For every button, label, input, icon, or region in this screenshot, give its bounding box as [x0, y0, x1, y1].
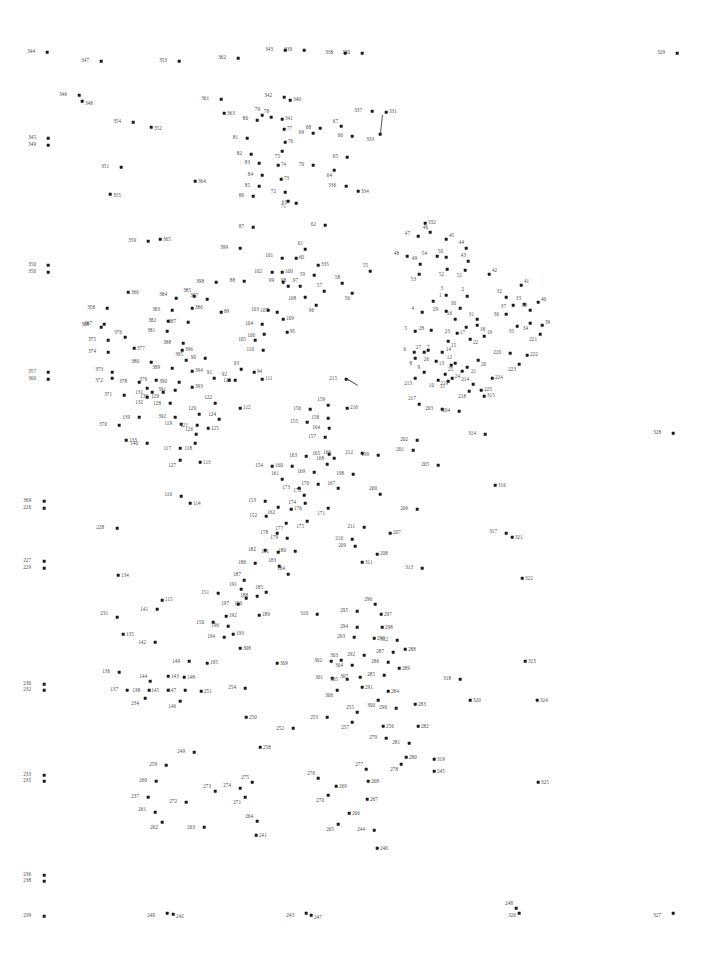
puzzle-dot [373, 637, 376, 640]
puzzle-dot [436, 255, 439, 258]
dot-number-label: 331 [389, 109, 397, 114]
dot-number-label: 394 [195, 368, 203, 373]
puzzle-dot [459, 307, 462, 310]
puzzle-dot [198, 413, 201, 416]
puzzle-dot [400, 763, 403, 766]
puzzle-dot [476, 324, 479, 327]
puzzle-dot [414, 703, 417, 706]
puzzle-dot [46, 51, 49, 54]
puzzle-dot [218, 418, 221, 421]
dot-number-label: 353 [159, 58, 167, 63]
dot-number-label: 379 [139, 377, 147, 382]
dot-number-label: 182 [248, 547, 256, 552]
dot-number-label: 57 [317, 283, 322, 288]
dot-number-label: 117 [163, 446, 171, 451]
dot-number-label: 71 [281, 204, 286, 209]
dot-number-label: 278 [390, 767, 398, 772]
puzzle-dot [312, 132, 315, 135]
dot-number-label: 36 [494, 312, 499, 317]
puzzle-dot [298, 487, 301, 490]
dot-number-label: 26 [424, 357, 429, 362]
puzzle-dot [676, 52, 679, 55]
puzzle-dot [217, 592, 220, 595]
puzzle-dot [371, 110, 374, 113]
dot-number-label: 12 [447, 355, 452, 360]
dot-number-label: 58 [335, 275, 340, 280]
dot-number-label: 302 [314, 658, 322, 663]
dot-number-label: 163 [289, 453, 297, 458]
dot-number-label: 20 [481, 362, 486, 367]
dot-number-label: 392 [158, 414, 166, 419]
puzzle-dot [303, 49, 306, 52]
puzzle-dot [286, 537, 289, 540]
puzzle-dot [43, 915, 46, 918]
puzzle-dot [359, 676, 362, 679]
puzzle-dot [516, 325, 519, 328]
puzzle-dot [155, 379, 158, 382]
puzzle-dot [430, 329, 433, 332]
puzzle-dot [240, 368, 243, 371]
puzzle-dot [488, 273, 491, 276]
puzzle-dot [294, 550, 297, 553]
puzzle-dot [405, 756, 408, 759]
dot-number-label: 204 [442, 408, 450, 413]
puzzle-dot [344, 52, 347, 55]
dot-number-label: 131 [135, 390, 143, 395]
dot-number-label: 264 [245, 814, 253, 819]
dot-number-label: 219 [440, 381, 448, 386]
dot-number-label: 248 [505, 901, 513, 906]
puzzle-dot [154, 641, 157, 644]
puzzle-dot [281, 150, 284, 153]
puzzle-dot [240, 588, 243, 591]
puzzle-dot [213, 377, 216, 380]
dot-number-label: 274 [223, 783, 231, 788]
puzzle-dot [199, 461, 202, 464]
dot-number-label: 211 [347, 524, 355, 529]
dot-number-label: 287 [376, 649, 384, 654]
puzzle-dot [43, 560, 46, 563]
dot-number-label: 277 [355, 762, 363, 767]
dot-number-label: 65 [333, 154, 338, 159]
puzzle-dot [435, 360, 438, 363]
dot-number-label: 247 [314, 915, 322, 920]
dot-number-label: 77 [287, 126, 292, 131]
dot-number-label: 222 [530, 352, 538, 357]
puzzle-dot [281, 478, 284, 481]
dot-number-label: 166 [323, 450, 331, 455]
dot-number-label: 376 [114, 330, 122, 335]
dot-number-label: 56 [345, 296, 350, 301]
dot-number-label: 232 [23, 687, 31, 692]
puzzle-dot [373, 829, 376, 832]
puzzle-dot [282, 318, 285, 321]
dot-number-label: 213 [404, 381, 412, 386]
dot-number-label: 64 [327, 173, 332, 178]
puzzle-dot [518, 363, 521, 366]
puzzle-dot [290, 508, 293, 511]
dot-number-label: 397 [190, 293, 198, 298]
puzzle-dot [389, 532, 392, 535]
puzzle-dot [292, 727, 295, 730]
puzzle-dot [491, 377, 494, 380]
puzzle-dot [47, 378, 50, 381]
puzzle-dot [337, 823, 340, 826]
puzzle-dot [166, 330, 169, 333]
puzzle-dot [256, 119, 259, 122]
dot-number-label: 261 [138, 807, 146, 812]
puzzle-dot [454, 362, 457, 365]
dot-number-label: 347 [81, 58, 89, 63]
dot-number-label: 333 [366, 137, 374, 142]
dot-number-label: 5 [404, 326, 407, 331]
puzzle-dot [295, 257, 298, 260]
puzzle-dot [147, 796, 150, 799]
dot-number-label: 258 [263, 745, 271, 750]
puzzle-dot [243, 280, 246, 283]
puzzle-dot [251, 781, 254, 784]
dot-number-label: 118 [184, 446, 192, 451]
dot-number-label: 270 [316, 798, 324, 803]
dot-number-label: 210 [335, 536, 343, 541]
dot-number-label: 325 [541, 780, 549, 785]
dot-number-label: 329 [657, 50, 665, 55]
dot-number-label: 310 [300, 611, 308, 616]
puzzle-dot [484, 433, 487, 436]
dot-number-label: 177 [275, 526, 283, 531]
